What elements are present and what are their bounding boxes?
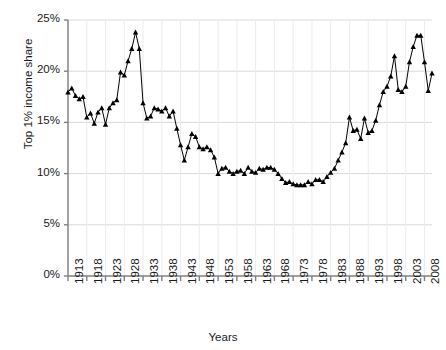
x-tick-label: 1988: [354, 258, 366, 284]
series-top1-income-share: [65, 30, 434, 188]
y-tick-label: 10%: [37, 166, 60, 178]
gridlines: [68, 20, 432, 276]
x-tick-label: 1983: [336, 258, 348, 284]
x-tick-label: 1928: [129, 258, 141, 284]
axis-lines: [68, 20, 432, 276]
x-tick-label: 1953: [223, 258, 235, 284]
x-tick-label: 2003: [411, 258, 423, 284]
x-tick-label: 1923: [111, 258, 123, 284]
x-tick-label: 2008: [429, 258, 441, 284]
chart-figure: 0%5%10%15%20%25% 19131918192319281933193…: [0, 0, 446, 350]
x-tick-label: 1993: [373, 258, 385, 284]
y-tick-label: 15%: [37, 114, 60, 126]
x-tick-label: 1998: [392, 258, 404, 284]
x-tick-label: 1918: [92, 258, 104, 284]
x-tick-label: 1963: [261, 258, 273, 284]
y-tick-label: 5%: [43, 217, 60, 229]
x-tick-label: 1973: [298, 258, 310, 284]
x-tick-label: 1913: [73, 258, 85, 284]
x-tick-label: 1943: [186, 258, 198, 284]
chart-plot-area: [0, 0, 446, 350]
x-tick-label: 1933: [148, 258, 160, 284]
x-tick-label: 1978: [317, 258, 329, 284]
x-tick-label: 1958: [242, 258, 254, 284]
x-tick-label: 1968: [279, 258, 291, 284]
y-tick-label: 0%: [43, 268, 60, 280]
x-tick-label: 1938: [167, 258, 179, 284]
x-tick-label: 1948: [204, 258, 216, 284]
y-tick-label: 25%: [37, 12, 60, 24]
y-tick-label: 20%: [37, 63, 60, 75]
y-axis-title: Top 1% income share: [22, 14, 34, 174]
x-axis-title: Years: [0, 331, 446, 343]
